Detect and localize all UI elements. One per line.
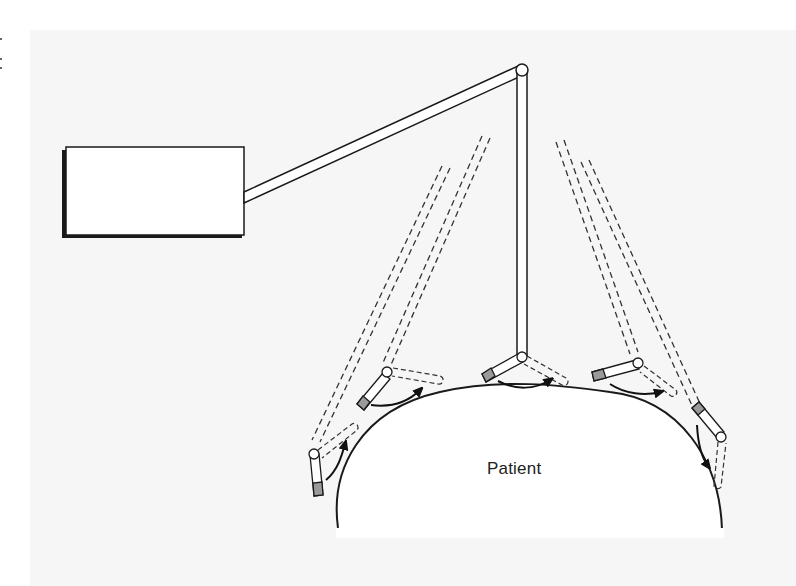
vertical-arm (516, 64, 528, 356)
upper-arm (244, 66, 521, 203)
base-unit (62, 147, 244, 238)
patient-label: Patient (487, 459, 541, 479)
probe-position-3 (482, 352, 568, 388)
diagram-canvas: Patient (0, 0, 796, 586)
